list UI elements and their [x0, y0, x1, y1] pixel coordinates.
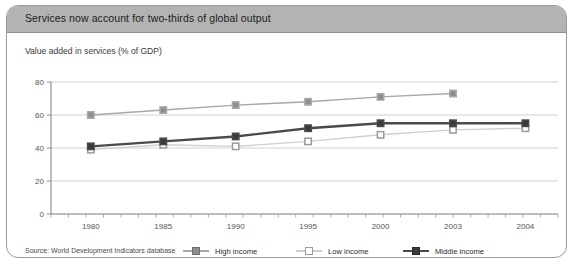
data-point-marker [232, 133, 238, 139]
chart-legend: High income Low income Middle income [183, 244, 513, 258]
y-axis-label: 0 [40, 210, 45, 219]
data-point-marker [450, 120, 456, 126]
y-axis-label: 40 [35, 144, 44, 153]
data-point-marker [305, 138, 311, 144]
chart-panel: Services now account for two-thirds of g… [6, 5, 567, 258]
data-point-marker [160, 107, 166, 113]
x-axis-label: 1995 [299, 222, 317, 231]
y-axis-label: 60 [35, 111, 44, 120]
x-axis-label: 1990 [227, 222, 245, 231]
data-point-marker [377, 132, 383, 138]
data-point-marker [450, 127, 456, 133]
x-axis-label: 1985 [154, 222, 172, 231]
data-point-marker [88, 112, 94, 118]
data-point-marker [160, 138, 166, 144]
legend-swatch-low-income [296, 246, 322, 256]
data-point-marker [305, 99, 311, 105]
data-point-marker [522, 120, 528, 126]
legend-label-high-income: High income [215, 247, 257, 256]
legend-label-low-income: Low income [328, 247, 369, 256]
legend-swatch-high-income [183, 246, 209, 256]
x-axis-label: 2003 [444, 222, 462, 231]
legend-item-middle-income[interactable]: Middle income [403, 244, 484, 258]
source-note: Source: World Development Indicators dat… [25, 247, 175, 254]
data-point-marker [305, 125, 311, 131]
legend-item-high-income[interactable]: High income [183, 244, 257, 258]
plot-area: 0204060801980198519901995200020032004 [7, 6, 567, 258]
x-axis-label: 2004 [517, 222, 535, 231]
data-point-marker [232, 143, 238, 149]
y-axis-label: 20 [35, 177, 44, 186]
y-axis-label: 80 [35, 78, 44, 87]
x-axis-label: 2000 [372, 222, 390, 231]
data-point-marker [232, 102, 238, 108]
data-point-marker [88, 143, 94, 149]
legend-swatch-middle-income [403, 246, 429, 256]
legend-label-middle-income: Middle income [435, 247, 484, 256]
line-chart: 0204060801980198519901995200020032004 [7, 6, 567, 258]
data-point-marker [377, 94, 383, 100]
x-axis-label: 1980 [82, 222, 100, 231]
series-line [91, 94, 453, 115]
data-point-marker [450, 90, 456, 96]
legend-item-low-income[interactable]: Low income [296, 244, 369, 258]
data-point-marker [377, 120, 383, 126]
